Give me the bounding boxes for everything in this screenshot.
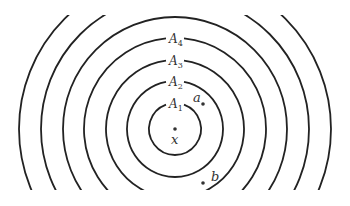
ring-labels: A1A2A3A4 [168,32,183,113]
ring-label-a4: A4 [168,32,183,48]
ring-label-a2: A2 [168,75,183,91]
point-label-a: a [193,90,201,105]
point-x [173,127,177,131]
point-b [201,181,205,185]
point-label-b: b [211,169,219,184]
concentric-rings-diagram: A1A2A3A4 xab [0,0,350,206]
point-a [201,102,205,106]
ring-label-a1: A1 [168,97,183,113]
point-label-x: x [171,132,179,147]
ring-label-a3: A3 [168,54,183,70]
